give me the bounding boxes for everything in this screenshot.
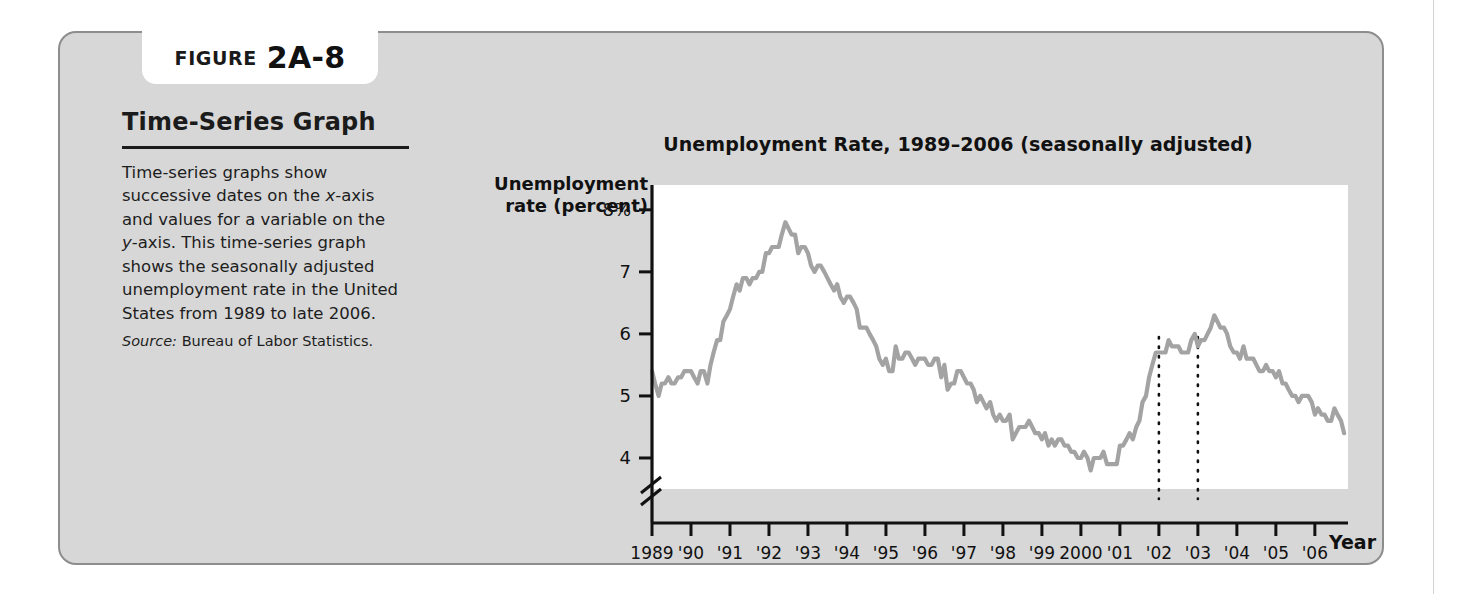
x-axis-tick-label: '92 <box>756 543 782 563</box>
x-axis-tick-label: '96 <box>912 543 938 563</box>
y-axis-tick-label: 6 <box>620 323 631 344</box>
x-axis-tick-label: '90 <box>678 543 704 563</box>
x-axis-tick-label: '98 <box>990 543 1016 563</box>
chart-container: Unemployment Rate, 1989–2006 (seasonally… <box>440 93 1380 563</box>
x-axis-tick-label: '91 <box>717 543 743 563</box>
y-axis-tick-label: 5 <box>620 385 631 406</box>
figure-panel: FIGURE 2A-8 Time-Series Graph Time-serie… <box>58 31 1384 565</box>
y-axis-tick-label: 8% <box>602 199 631 220</box>
figure-number-tab: FIGURE 2A-8 <box>142 31 378 84</box>
figure-source: Source: Bureau of Labor Statistics. <box>122 333 414 349</box>
x-axis-tick-label: '06 <box>1302 543 1328 563</box>
x-axis-tick-label: 1989 <box>630 543 673 563</box>
x-axis-tick-label: 2000 <box>1059 543 1102 563</box>
x-axis-tick-label: '93 <box>795 543 821 563</box>
y-axis-tick-label: 4 <box>620 447 631 468</box>
x-axis-tick-label: '94 <box>834 543 860 563</box>
x-axis-tick-label: '97 <box>951 543 977 563</box>
figure-number: 2A-8 <box>267 40 346 75</box>
heading-divider <box>122 146 409 149</box>
figure-description-column: Time-Series Graph Time-series graphs sho… <box>122 108 414 349</box>
x-axis-tick-label: '01 <box>1107 543 1133 563</box>
x-axis-tick-label: '99 <box>1029 543 1055 563</box>
figure-label: FIGURE <box>175 47 257 69</box>
x-axis-tick-label: '95 <box>873 543 899 563</box>
y-axis-tick-label: 7 <box>620 261 631 282</box>
time-series-plot: 45678%1989'90'91'92'93'94'95'96'97'98'99… <box>440 93 1380 563</box>
figure-caption: Time-series graphs show successive dates… <box>122 161 402 325</box>
x-axis-tick-label: '04 <box>1224 543 1250 563</box>
plot-area <box>652 185 1348 489</box>
source-label: Source: <box>122 333 177 349</box>
x-axis-tick-label: '02 <box>1146 543 1172 563</box>
page-margin-rule <box>1433 0 1434 594</box>
figure-side-heading: Time-Series Graph <box>122 108 414 136</box>
source-text: Bureau of Labor Statistics. <box>182 333 373 349</box>
x-axis-tick-label: '03 <box>1185 543 1211 563</box>
x-axis-tick-label: '05 <box>1263 543 1289 563</box>
